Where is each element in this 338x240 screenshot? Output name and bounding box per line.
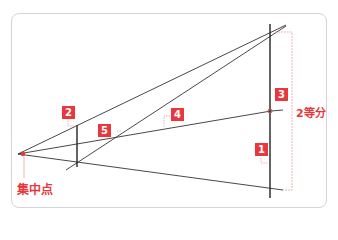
badge-2: 2: [62, 106, 75, 119]
badge-5: 5: [98, 124, 111, 137]
perspective-line-bottom: [18, 154, 283, 190]
leader-1: [261, 158, 268, 163]
diagonal-line: [66, 26, 286, 170]
leader-2: [68, 118, 77, 126]
bisect-label: 2等分: [296, 104, 326, 120]
badge-3: 3: [275, 88, 288, 101]
leader-4: [164, 116, 170, 127]
perspective-line-top-1: [18, 25, 286, 154]
vanishing-point-dot: [21, 152, 25, 156]
badge-1: 1: [255, 143, 268, 156]
badge-4: 4: [171, 108, 184, 121]
vanishing-point-label: 集中点: [17, 180, 53, 197]
bisect-bracket: [275, 32, 292, 190]
middle-extension: [271, 110, 283, 111]
perspective-line-middle: [18, 111, 271, 154]
